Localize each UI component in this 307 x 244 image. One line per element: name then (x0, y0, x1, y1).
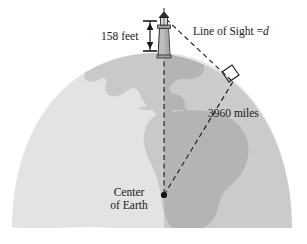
center-label-line-1: Center (97, 186, 161, 199)
height-label: 158 feet (101, 30, 138, 43)
dimension-arrow-up (147, 23, 154, 30)
line-of-sight-variable: d (263, 25, 269, 37)
lighthouse-icon (157, 8, 171, 58)
earth-center-dot (161, 192, 167, 198)
shaded-hemisphere-half (164, 40, 304, 240)
lighthouse-base (157, 55, 171, 58)
lighthouse-geometry-figure: 158 feet Line of Sight =d 3960 miles Cen… (0, 0, 307, 244)
line-of-sight-text: Line of Sight = (193, 25, 263, 37)
line-of-sight-label: Line of Sight =d (193, 25, 269, 38)
center-label-line-2: of Earth (97, 199, 161, 212)
dome-base-trim (0, 226, 307, 244)
radius-label: 3960 miles (208, 107, 259, 120)
height-dimension (143, 21, 157, 51)
dimension-arrow-down (147, 42, 154, 49)
lighthouse-roof (159, 12, 169, 18)
center-of-earth-label: Center of Earth (97, 186, 161, 212)
